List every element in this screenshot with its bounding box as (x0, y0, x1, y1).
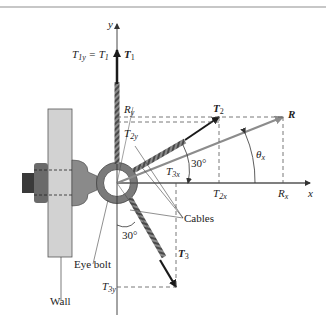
T1-label: T1 (124, 48, 135, 62)
cable-1 (115, 82, 120, 164)
Ry-label: Ry (123, 103, 135, 117)
T2y-label: T2y (124, 127, 138, 141)
T2-label: T2 (213, 102, 224, 116)
T2x-label: T2x (213, 187, 227, 201)
wall (48, 109, 72, 300)
x-axis-label: x (307, 187, 313, 199)
R-label: R (287, 108, 295, 120)
theta-x-label: θx (256, 148, 265, 162)
T3-angle-label: 30° (122, 229, 137, 241)
angle-arc-T3 (117, 222, 135, 227)
T2-arrow (185, 117, 219, 140)
T3y-label: T3y (102, 280, 116, 294)
component-dashes (117, 117, 283, 287)
cables-label: Cables (184, 212, 214, 224)
angle-arc-theta (245, 133, 255, 183)
angle-arc-T2 (183, 145, 189, 183)
Rx-label: Rx (277, 187, 289, 201)
y-axis-label: y (107, 18, 113, 30)
cable-2 (132, 139, 186, 173)
cable-3 (128, 197, 166, 258)
eye-bolt-label: Eye bolt (74, 258, 111, 270)
T3-label: T3 (178, 247, 189, 261)
wall-label: Wall (50, 295, 71, 307)
T2-angle-label: 30° (191, 157, 206, 169)
T1y-equals-T1-label: T1y = T1 (72, 48, 109, 62)
force-diagram: y x T1y = T1 T1 Ry (0, 0, 326, 328)
T3x-label: T3x (166, 165, 180, 179)
eye-bolt-callout-line (93, 200, 108, 264)
T3-arrow (160, 260, 176, 287)
